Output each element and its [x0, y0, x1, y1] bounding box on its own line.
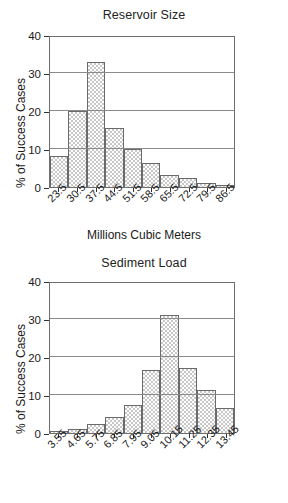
y-tick-mark [44, 320, 49, 321]
y-tick-mark [44, 74, 49, 75]
chart-panel-sediment-load: Sediment Load % of Success Cases Integer… [0, 250, 288, 503]
y-tick-mark [44, 434, 49, 435]
y-tick-label: 40 [15, 276, 41, 288]
bar [105, 128, 123, 187]
gridline [50, 356, 234, 357]
y-axis-label-sediment: % of Success Cases [14, 324, 28, 434]
histogram-figure: Reservoir Size % of Success Cases Millio… [0, 0, 288, 503]
y-tick-mark [44, 36, 49, 37]
bar [142, 370, 160, 433]
y-tick-mark [44, 150, 49, 151]
gridline [50, 72, 234, 73]
bar [87, 62, 105, 187]
gridline [50, 110, 234, 111]
bar [160, 315, 178, 433]
bar [68, 111, 86, 187]
y-tick-label: 20 [15, 106, 41, 118]
y-axis-label-reservoir: % of Success Cases [14, 78, 28, 188]
gridline [50, 318, 234, 319]
gridline [50, 394, 234, 395]
chart-title-sediment-load: Sediment Load [0, 256, 288, 270]
y-tick-label: 10 [15, 144, 41, 156]
plot-area-sediment [49, 282, 235, 434]
y-tick-mark [44, 112, 49, 113]
y-tick-label: 30 [15, 68, 41, 80]
y-tick-mark [44, 188, 49, 189]
y-tick-label: 40 [15, 30, 41, 42]
y-tick-mark [44, 396, 49, 397]
y-tick-label: 30 [15, 314, 41, 326]
chart-title-reservoir-size: Reservoir Size [0, 8, 288, 22]
y-tick-mark [44, 358, 49, 359]
chart-panel-reservoir-size: Reservoir Size % of Success Cases Millio… [0, 0, 288, 250]
y-tick-label: 10 [15, 390, 41, 402]
bar-series-sediment [50, 283, 234, 433]
bar-series-reservoir [50, 37, 234, 187]
y-tick-label: 0 [15, 182, 41, 194]
y-tick-label: 0 [15, 428, 41, 440]
x-axis-label-reservoir: Millions Cubic Meters [0, 228, 288, 242]
plot-area-reservoir [49, 36, 235, 188]
y-tick-label: 20 [15, 352, 41, 364]
y-tick-mark [44, 282, 49, 283]
gridline [50, 148, 234, 149]
